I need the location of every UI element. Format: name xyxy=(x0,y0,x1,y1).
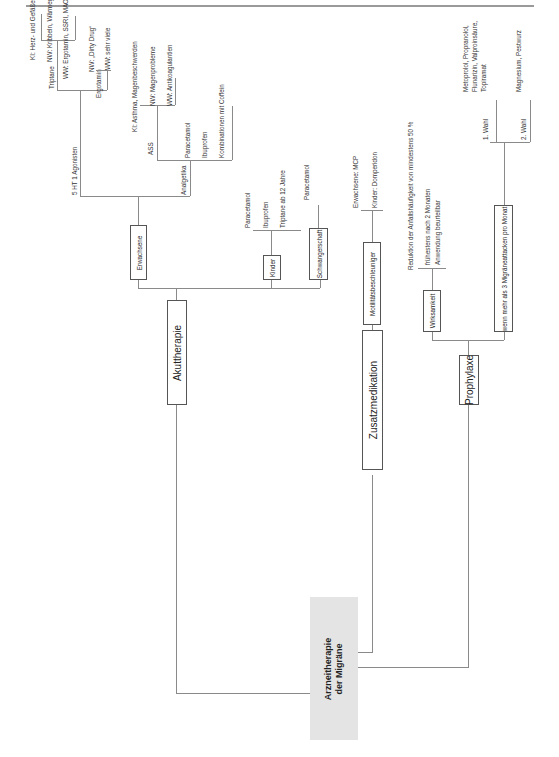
connector xyxy=(418,268,446,269)
wirksamkeit-node: Wirksamkeit xyxy=(423,290,441,332)
connector xyxy=(320,280,321,288)
triptane-nw: NW: Kribbeln, Wärmegefühl xyxy=(46,0,54,62)
triptane-ww: WW: Ergotamin, SSRI, MAO-Hemmer xyxy=(62,0,70,79)
agonisten-label: 5 HT 1 Agonisten xyxy=(71,147,79,195)
kinder-item: Triptane ab 12 Jahre xyxy=(279,170,287,228)
motilitaet-item: Erwachsene: MCP xyxy=(352,156,360,208)
triptane-ki: KI: Herz- und Gefäßerkrankungen xyxy=(29,0,37,60)
page-header-rule xyxy=(26,5,534,7)
connector xyxy=(530,100,531,142)
connector xyxy=(176,405,177,694)
connector xyxy=(318,205,319,228)
ass-nw: NW: Magenprobleme xyxy=(149,47,157,106)
connector xyxy=(271,280,272,288)
erwachsene-node: Erwachsene xyxy=(130,225,147,280)
connector xyxy=(372,475,373,653)
connector xyxy=(157,105,158,160)
connector xyxy=(138,280,139,288)
connector xyxy=(96,70,111,71)
connector xyxy=(80,90,81,196)
ass-ww: WW: Antikoagulantien xyxy=(166,45,174,107)
connector xyxy=(271,230,272,255)
connector xyxy=(176,288,177,300)
connector xyxy=(80,196,190,197)
connector xyxy=(107,70,108,90)
wirksamkeit-item: frühestens nach 2 Monaten xyxy=(424,189,432,265)
triptane-label: Triptane xyxy=(48,66,56,89)
connector xyxy=(432,340,504,341)
connector xyxy=(361,210,383,211)
connector xyxy=(176,693,310,694)
connector xyxy=(175,78,176,105)
schwangerschaft-item: Paracetamol xyxy=(303,165,311,200)
prophylaxe-node: Prophylaxe xyxy=(459,355,479,405)
ass-ki: KI: Asthma, Magenbeschwerden xyxy=(131,41,139,132)
wahl2-text: Magnesium, Pestwurz xyxy=(515,30,523,92)
akuttherapie-node: Akuttherapie xyxy=(167,300,187,405)
connector xyxy=(372,210,373,242)
root-title-line1: Arzneitherapie xyxy=(323,637,333,700)
wirksamkeit-item: Anwendung beurteilbar xyxy=(434,200,442,265)
kinder-item: Ibuprofen xyxy=(262,201,270,228)
connector xyxy=(496,100,497,142)
connector xyxy=(253,230,301,231)
connector xyxy=(57,40,58,90)
root-title-line2: der Migräne xyxy=(334,643,344,694)
connector xyxy=(138,288,320,289)
motilitaet-item: Kinder: Domperidon xyxy=(371,152,379,208)
wirksamkeit-item: Reduktion der Anfallshäufigkeit von mind… xyxy=(407,122,415,270)
analgetika-item: Ibuprofen xyxy=(201,131,209,158)
connector xyxy=(358,652,372,653)
zusatzmedikation-node: Zusatzmedikation xyxy=(362,330,383,470)
motilitaet-node: Motilitätsbeschleuniger xyxy=(363,242,381,325)
connector xyxy=(468,405,469,668)
connector xyxy=(190,160,191,196)
analgetika-item: Kombinationen mit Coffein xyxy=(218,84,226,158)
connector xyxy=(138,196,139,225)
kinder-node: Kinder xyxy=(263,255,281,280)
connector xyxy=(41,14,42,40)
ass-label: ASS xyxy=(147,142,155,155)
connector xyxy=(372,325,373,330)
schwangerschaft-node: Schwangerschaft xyxy=(309,228,328,280)
ergotamin-label: Ergotamin xyxy=(95,69,103,98)
wahl2-label: 2. Wahl xyxy=(520,119,528,140)
connector xyxy=(468,340,469,355)
connector xyxy=(157,160,232,161)
connector xyxy=(232,106,233,160)
connector xyxy=(358,667,468,668)
ergotamin-ww: WW: sehr viele xyxy=(104,28,112,70)
connector xyxy=(490,142,530,143)
ergotamin-nw: NW: „Dirty Drug“ xyxy=(88,26,96,72)
wahl1-text: Flunarizin, Valproinsäure, xyxy=(471,21,479,92)
connector xyxy=(432,268,433,290)
wahl1-text: Metoprolol, Propranolol, xyxy=(462,25,470,92)
connector xyxy=(504,332,505,340)
analgetika-label: Analgetika xyxy=(180,166,188,195)
connector xyxy=(504,142,505,205)
wahl1-text: Topiramat xyxy=(480,64,488,92)
connector xyxy=(75,16,76,40)
indikation-node: wenn mehr als 3 Migräneattacken pro Mona… xyxy=(494,205,513,332)
wahl1-label: 1. Wahl xyxy=(482,119,490,140)
connector xyxy=(432,332,433,340)
root-node: Arzneitherapieder Migräne xyxy=(310,597,358,740)
analgetika-item: Paracetamol xyxy=(184,123,192,158)
kinder-item: Paracetamol xyxy=(244,193,252,228)
